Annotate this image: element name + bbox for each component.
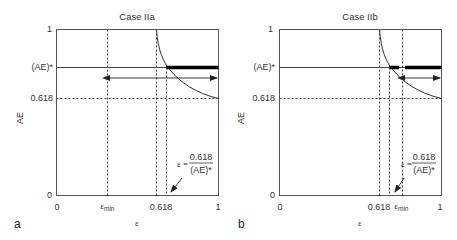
panel-b-letter: b — [238, 217, 245, 231]
svg-text:0.618: 0.618 — [413, 152, 436, 162]
panel-b-title: Case IIb — [342, 11, 377, 22]
panel-a-ylabel: AE — [15, 112, 25, 124]
panel-b-annotation: ε = 0.618 (AE)* — [395, 152, 436, 192]
panel-b-ytick-1: 1 — [268, 24, 273, 34]
panel-a-ytick-0618: 0.618 — [30, 93, 53, 103]
panel-a-title: Case IIa — [119, 11, 155, 22]
panel-b-curve — [380, 30, 442, 99]
panel-a-xlabel: ε — [135, 218, 139, 228]
svg-text:ε =: ε = — [177, 159, 188, 169]
panel-b-xtick-0: 0 — [277, 202, 282, 212]
panel-a-xtick-eps-min: ε min — [100, 201, 115, 212]
svg-text:(AE)*: (AE)* — [190, 165, 212, 175]
panel-a: Case IIa 1 (AE)* 0.618 0 AE 0 ε min 0.61… — [14, 11, 221, 231]
svg-text:min: min — [104, 205, 115, 212]
panel-b-xtick-0618: 0.618 — [368, 202, 391, 212]
panel-b-xlabel: ε — [358, 218, 362, 228]
panel-a-xtick-0618: 0.618 — [150, 202, 173, 212]
panel-b-ytick-0: 0 — [270, 190, 275, 200]
svg-text:min: min — [398, 205, 409, 212]
panel-a-annotation-arrow — [171, 178, 182, 192]
panel-b-xtick-1: 1 — [437, 202, 442, 212]
panel-a-xtick-0: 0 — [54, 202, 59, 212]
panel-a-ytick-0: 0 — [47, 190, 52, 200]
panel-a-curve — [157, 30, 219, 99]
figure-canvas: Case IIa 1 (AE)* 0.618 0 AE 0 ε min 0.61… — [0, 0, 457, 240]
svg-text:ε =: ε = — [401, 159, 412, 169]
panel-a-xtick-1: 1 — [215, 202, 220, 212]
panel-b-ytick-ae-star: (AE)* — [253, 62, 275, 72]
panel-a-ytick-ae-star: (AE)* — [31, 62, 53, 72]
panel-b: Case IIb 1 (AE)* 0.618 0 AE 0 0.618 ε mi… — [236, 11, 443, 231]
panel-a-letter: a — [14, 217, 21, 231]
panel-a-ytick-1: 1 — [47, 24, 52, 34]
panel-b-ytick-0618: 0.618 — [252, 93, 275, 103]
panel-a-annotation: ε = 0.618 (AE)* — [171, 152, 213, 192]
panel-b-ylabel: AE — [236, 112, 246, 124]
svg-text:(AE)*: (AE)* — [413, 165, 435, 175]
panel-b-xtick-eps-min: ε min — [394, 201, 409, 212]
svg-text:0.618: 0.618 — [190, 152, 213, 162]
